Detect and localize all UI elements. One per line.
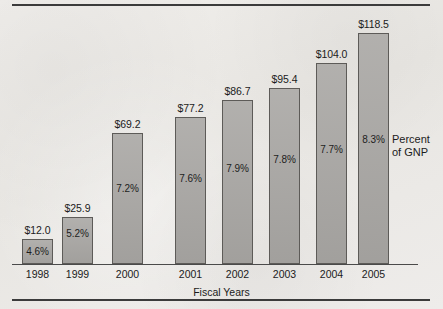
bar-2000 bbox=[112, 133, 143, 264]
value-label-2003: $95.4 bbox=[259, 73, 310, 85]
percent-label-2005: 8.3% bbox=[358, 134, 389, 145]
annotation-line-2: of GNP bbox=[392, 146, 430, 159]
value-label-2000: $69.2 bbox=[102, 118, 153, 130]
percent-label-2002: 7.9% bbox=[222, 163, 253, 174]
x-tick-label-2000: 2000 bbox=[102, 268, 153, 280]
bar-2005 bbox=[358, 33, 389, 264]
x-tick-label-2002: 2002 bbox=[212, 268, 263, 280]
x-axis-title: Fiscal Years bbox=[0, 286, 443, 298]
percent-label-2000: 7.2% bbox=[112, 183, 143, 194]
value-label-2005: $118.5 bbox=[346, 18, 401, 30]
value-label-2004: $104.0 bbox=[304, 48, 359, 60]
bar-2003 bbox=[269, 88, 300, 264]
percent-label-1999: 5.2% bbox=[62, 228, 93, 239]
x-tick-label-2005: 2005 bbox=[348, 268, 399, 280]
bar-2004 bbox=[316, 63, 347, 264]
percent-label-2004: 7.7% bbox=[316, 144, 347, 155]
value-label-2001: $77.2 bbox=[165, 102, 216, 114]
value-label-1998: $12.0 bbox=[12, 224, 63, 236]
value-label-2002: $86.7 bbox=[212, 85, 263, 97]
x-axis-line bbox=[12, 264, 418, 265]
x-tick-label-2003: 2003 bbox=[259, 268, 310, 280]
annotation-line-1: Percent bbox=[392, 133, 430, 146]
bar-2001 bbox=[175, 117, 206, 264]
percent-label-2001: 7.6% bbox=[175, 173, 206, 184]
value-label-1999: $25.9 bbox=[52, 202, 103, 214]
percent-label-2003: 7.8% bbox=[269, 154, 300, 165]
x-tick-label-1999: 1999 bbox=[52, 268, 103, 280]
percent-of-gnp-annotation: Percent of GNP bbox=[392, 133, 430, 158]
bar-2002 bbox=[222, 100, 253, 264]
bar-chart: $12.0 $25.9 $69.2 $77.2 $86.7 $95.4 $104… bbox=[0, 0, 443, 309]
percent-label-1998: 4.6% bbox=[22, 246, 53, 257]
x-tick-label-2001: 2001 bbox=[165, 268, 216, 280]
bar-1999 bbox=[62, 217, 93, 264]
